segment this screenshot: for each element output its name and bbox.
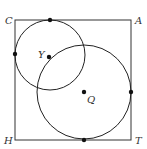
label-q: Q (87, 94, 95, 105)
small-circle (15, 20, 85, 90)
label-y: Y (38, 49, 46, 60)
square (15, 20, 131, 140)
point-y (47, 55, 51, 59)
geometry-diagram: C A H T Y Q (0, 0, 147, 149)
point-top-tangent (48, 18, 52, 22)
label-c: C (5, 15, 13, 26)
point-bottom-tangent (82, 138, 86, 142)
label-a: A (134, 15, 142, 26)
label-t: T (135, 135, 143, 146)
point-right-tangent (129, 90, 133, 94)
label-h: H (3, 135, 13, 146)
point-q (82, 90, 86, 94)
point-left-tangent (13, 52, 17, 56)
